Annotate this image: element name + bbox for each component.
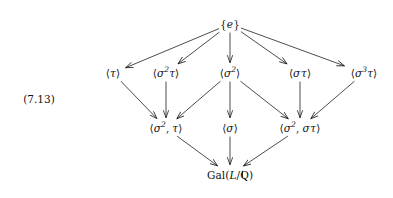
figure-canvas: (7.13) {e} ⟨τ⟩ ⟨σ2τ⟩ ⟨σ2⟩ ⟨στ⟩ ⟨σ3τ⟩ ⟨σ2… <box>0 0 393 198</box>
edge-s2-to-s2_tau <box>177 81 220 118</box>
edge-e-to-s3tau <box>241 28 344 66</box>
node-tau: ⟨τ⟩ <box>106 68 120 79</box>
node-sigma2-tau: ⟨σ2τ⟩ <box>153 68 180 79</box>
edge-s2_tau-to-gal <box>177 136 217 165</box>
node-sigma2: ⟨σ2⟩ <box>220 68 241 79</box>
node-sigma2-comma-tau: ⟨σ2, τ⟩ <box>150 123 183 134</box>
node-identity-subgroup: {e} <box>220 19 240 30</box>
node-sigma3-tau: ⟨σ3τ⟩ <box>351 68 378 79</box>
edge-s2-to-s2_stau <box>241 81 288 118</box>
equation-tag: (7.13) <box>23 94 55 105</box>
edge-group <box>121 28 354 166</box>
arrow-layer <box>0 0 393 198</box>
edge-e-to-stau <box>241 32 287 64</box>
node-galois-group: Gal(L/Q) <box>207 170 253 181</box>
edge-tau-to-s2_tau <box>121 82 156 119</box>
edge-s2_stau-to-gal <box>244 136 288 165</box>
edge-e-to-tau <box>126 29 219 68</box>
node-sigma2-comma-sigma-tau: ⟨σ2, στ⟩ <box>280 123 321 134</box>
edge-e-to-s2tau <box>178 32 219 63</box>
node-sigma-tau: ⟨στ⟩ <box>289 68 311 79</box>
edge-s3tau-to-s2_stau <box>311 81 354 118</box>
node-sigma: ⟨σ⟩ <box>222 123 238 134</box>
